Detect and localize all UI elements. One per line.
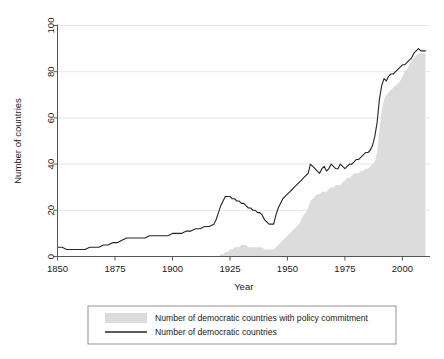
y-axis-title: Number of countries <box>12 98 23 184</box>
x-tick-label-1950: 1950 <box>277 263 298 274</box>
chart-legend: Number of democratic countries with poli… <box>88 306 396 344</box>
x-tick-label-1850: 1850 <box>47 263 68 274</box>
legend-item-label-0: Number of democratic countries with poli… <box>155 313 369 323</box>
x-tick-label-1875: 1875 <box>104 263 125 274</box>
x-axis-title: Year <box>234 281 253 292</box>
legend-item-label-1: Number of democratic countries <box>155 327 277 337</box>
x-tick-label-2000: 2000 <box>392 263 413 274</box>
chart-figure: 020406080100 185018751900192519501975200… <box>0 0 444 359</box>
legend-area-swatch-icon <box>105 313 147 323</box>
y-tick-label-40: 40 <box>45 159 56 170</box>
y-tick-label-80: 80 <box>45 66 56 77</box>
y-tick-label-60: 60 <box>45 113 56 124</box>
y-tick-label-0: 0 <box>45 254 56 259</box>
legend-border <box>88 306 396 344</box>
y-tick-label-20: 20 <box>45 205 56 216</box>
chart-canvas: 020406080100 185018751900192519501975200… <box>0 0 444 359</box>
y-tick-label-100: 100 <box>45 18 56 34</box>
x-tick-label-1925: 1925 <box>219 263 240 274</box>
x-tick-label-1975: 1975 <box>334 263 355 274</box>
x-tick-label-1900: 1900 <box>162 263 183 274</box>
